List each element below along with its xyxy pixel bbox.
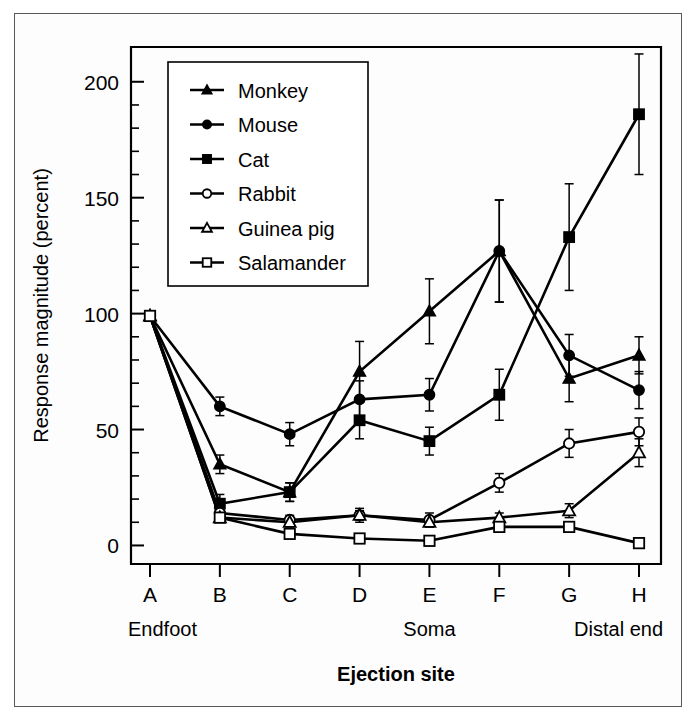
x-tick-label: D <box>352 583 367 606</box>
marker-open-square <box>634 538 644 548</box>
marker-filled-circle <box>564 350 574 360</box>
marker-open-square <box>203 258 212 267</box>
legend-label: Salamander <box>238 252 346 274</box>
x-tick-label: B <box>213 583 227 606</box>
marker-filled-triangle <box>633 349 645 360</box>
line-chart: 050100150200Response magnitude (percent)… <box>0 0 697 723</box>
marker-open-square <box>215 512 225 522</box>
marker-filled-square <box>285 487 295 497</box>
marker-filled-circle <box>215 401 225 411</box>
region-annotation: Distal end <box>574 618 663 640</box>
y-axis-title: Response magnitude (percent) <box>30 168 52 443</box>
x-tick-label: A <box>143 583 157 606</box>
marker-filled-circle <box>424 390 434 400</box>
marker-open-circle <box>494 478 504 488</box>
marker-filled-circle <box>354 394 364 404</box>
y-tick-label: 50 <box>96 419 119 442</box>
marker-open-square <box>564 522 574 532</box>
y-tick-label: 150 <box>84 187 119 210</box>
y-tick-label: 100 <box>84 303 119 326</box>
x-tick-label: H <box>631 583 646 606</box>
y-tick-label: 200 <box>84 71 119 94</box>
chart-container: 050100150200Response magnitude (percent)… <box>0 0 697 723</box>
marker-open-square <box>285 529 295 539</box>
legend-label: Mouse <box>238 114 298 136</box>
x-axis-title: Ejection site <box>337 663 455 685</box>
marker-filled-square <box>424 436 434 446</box>
marker-open-circle <box>564 438 574 448</box>
marker-filled-square <box>494 390 504 400</box>
marker-open-triangle <box>633 446 645 457</box>
y-tick-label: 0 <box>107 534 119 557</box>
marker-filled-triangle <box>214 458 226 469</box>
marker-filled-square <box>564 232 574 242</box>
marker-filled-circle <box>203 120 212 129</box>
marker-open-square <box>354 533 364 543</box>
legend-label: Cat <box>238 149 270 171</box>
series-line-rabbit <box>150 316 639 520</box>
marker-filled-square <box>203 155 212 164</box>
region-annotation: Endfoot <box>128 618 197 640</box>
marker-filled-circle <box>634 385 644 395</box>
x-tick-label: E <box>422 583 436 606</box>
x-tick-label: F <box>493 583 506 606</box>
series-line-guinea-pig <box>150 316 639 522</box>
legend-label: Rabbit <box>238 183 296 205</box>
legend-label: Monkey <box>238 80 308 102</box>
marker-open-square <box>494 522 504 532</box>
x-tick-label: C <box>282 583 297 606</box>
x-tick-label: G <box>561 583 577 606</box>
marker-open-square <box>424 536 434 546</box>
region-annotation: Soma <box>403 618 456 640</box>
legend-label: Guinea pig <box>238 218 335 240</box>
marker-open-circle <box>203 189 212 198</box>
marker-filled-circle <box>494 246 504 256</box>
marker-filled-square <box>634 109 644 119</box>
legend: MonkeyMouseCatRabbitGuinea pigSalamander <box>168 62 368 286</box>
marker-filled-square <box>354 415 364 425</box>
marker-open-circle <box>634 427 644 437</box>
marker-filled-circle <box>285 429 295 439</box>
marker-open-square <box>145 311 155 321</box>
series-line-monkey <box>150 251 639 492</box>
